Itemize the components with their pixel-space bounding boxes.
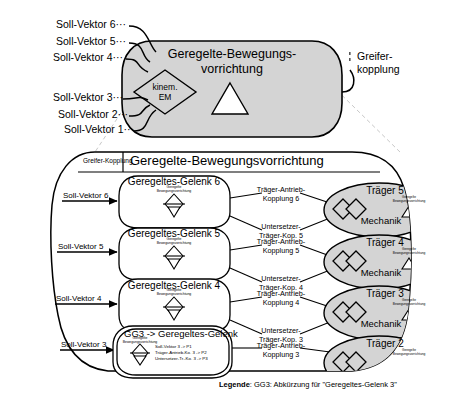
kinem-label: kinem. bbox=[152, 83, 177, 92]
top-input-label-5: Soll-Vektor 5··· bbox=[56, 36, 126, 47]
leader-dots: ··· bbox=[118, 108, 129, 120]
coupling-label-5-line1: Träger-Antrieb- bbox=[257, 290, 305, 298]
gg3-mapping-2: Träger-Antrieb-Ko. 3 -> P2 bbox=[155, 351, 207, 356]
carrier-title-4: Träger 4 bbox=[366, 238, 403, 249]
leader-dots: ··· bbox=[116, 18, 127, 30]
carrier-title-3: Träger 3 bbox=[366, 289, 403, 300]
carrier-micro-5-line2: Bewegungsvorrichtung bbox=[393, 200, 425, 203]
carrier-micro-3-line2: Bewegungsvorrichtung bbox=[393, 303, 425, 306]
coupling-label-3-line1: Träger-Antrieb- bbox=[257, 238, 305, 246]
leader-dots: ··· bbox=[116, 35, 127, 47]
coupling-label-4-line1: Untersetzer- bbox=[261, 275, 301, 283]
bottom-greifer-kopplung-label: Greifer-Kopplung bbox=[83, 158, 133, 165]
bottom-input-label-5: Soll-Vektor 5 bbox=[58, 243, 103, 251]
bottom-input-label-6: Soll-Vektor 6 bbox=[63, 192, 108, 200]
legend-text: : GG3: Abkürzung für "Geregeltes-Gelenk … bbox=[250, 380, 397, 389]
gg3-micro-line2: Bewegungsvorrichtung bbox=[123, 341, 158, 345]
coupling-label-6-line1: Untersetzer- bbox=[261, 327, 301, 335]
coupling-label-5-line2: Kopplung 4 bbox=[263, 299, 299, 307]
coupling-label-7-line2: Kopplung 3 bbox=[263, 351, 299, 359]
carrier-sub-4: Mechanik bbox=[361, 268, 402, 278]
carrier-micro-2-line2: Bewegungsvorrichtung bbox=[393, 353, 425, 356]
carrier-micro-4-line2: Bewegungsvorrichtung bbox=[393, 252, 425, 255]
top-device-title-line1: Geregelte-Bewegungs- bbox=[168, 48, 297, 61]
top-input-label-3: Soll-Vektor 3··· bbox=[53, 92, 123, 103]
leader-dots: ··· bbox=[113, 51, 124, 63]
legend: Legende: GG3: Abkürzung für "Geregeltes-… bbox=[219, 381, 397, 389]
carrier-sub-3: Mechanik bbox=[361, 319, 402, 329]
carrier-title-5: Träger 5 bbox=[366, 186, 403, 197]
top-input-label-6: Soll-Vektor 6··· bbox=[56, 19, 126, 30]
top-input-label-2: Soll-Vektor 2··· bbox=[58, 109, 128, 120]
diagram-root: Soll-Vektor 6··· Soll-Vektor 5··· Soll-V… bbox=[0, 0, 456, 404]
greifer-kopplung-label-line2: kopplung bbox=[357, 64, 400, 75]
bottom-input-label-4: Soll-Vektor 4 bbox=[56, 295, 101, 303]
bottom-header-title: Geregelte-Bewegungsvorrichtung bbox=[130, 154, 324, 168]
top-input-label-4: Soll-Vektor 4··· bbox=[53, 52, 123, 63]
coupling-label-3-line2: Kopplung 5 bbox=[263, 247, 299, 255]
coupling-label-7-line1: Träger-Antrieb- bbox=[257, 342, 305, 350]
gg3-mapping-3: Untersetzer-Tr.-Ko. 3 -> P3 bbox=[155, 357, 208, 362]
coupling-label-1-line2: Kopplung 6 bbox=[263, 195, 299, 203]
coupling-label-1-line1: Träger-Antrieb- bbox=[257, 186, 305, 194]
gg3-mapping-1: Soll-Vektor 3 -> P1 bbox=[155, 345, 192, 350]
carrier-title-2: Träger 2 bbox=[366, 339, 403, 350]
coupling-label-2-line1: Untersetzer- bbox=[261, 223, 301, 231]
bottom-input-label-3: Soll-Vektor 3 bbox=[61, 341, 106, 349]
leader-dots: ··· bbox=[124, 123, 135, 135]
joint-micro-5-line2: Bewegungsvorrichtung bbox=[157, 242, 192, 246]
greifer-kopplung-connector bbox=[342, 52, 354, 92]
legend-label: Legende bbox=[219, 380, 250, 389]
leader-dots: ··· bbox=[113, 91, 124, 103]
joint-micro-4-line2: Bewegungsvorrichtung bbox=[157, 293, 192, 297]
top-input-label-1: Soll-Vektor 1··· bbox=[64, 124, 134, 135]
top-device-title-line2: vorrichtung bbox=[201, 63, 263, 76]
carrier-sub-5: Mechanik bbox=[361, 216, 402, 226]
joint-micro-6-line2: Bewegungsvorrichtung bbox=[157, 190, 192, 194]
greifer-kopplung-label-line1: Greifer- bbox=[357, 51, 393, 62]
em-label: EM bbox=[159, 93, 172, 102]
